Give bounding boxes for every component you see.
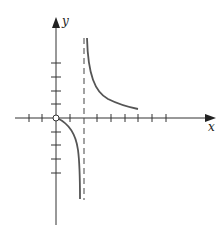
y-axis-arrow-icon xyxy=(52,17,60,28)
hole-marker xyxy=(53,115,59,121)
y-axis-label: y xyxy=(61,14,69,28)
function-graph: x y xyxy=(0,0,222,225)
curve-right-branch xyxy=(87,38,138,109)
x-axis-label: x xyxy=(208,120,215,134)
